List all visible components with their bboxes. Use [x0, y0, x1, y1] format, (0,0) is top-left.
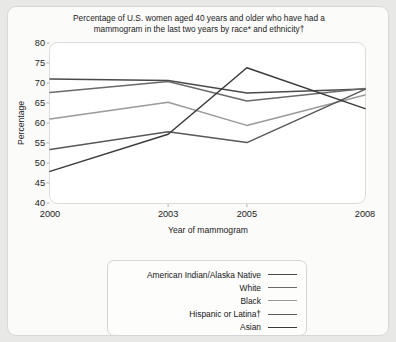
legend-item-label: Asian [240, 322, 261, 332]
plot-area [50, 43, 366, 204]
x-tick-label: 2008 [355, 209, 375, 219]
legend-item-swatch [268, 274, 297, 275]
x-tick-label: 2003 [158, 209, 178, 219]
y-tick-label: 60 [35, 118, 45, 128]
legend-item-swatch [268, 300, 297, 301]
legend-item-swatch [268, 327, 297, 328]
x-axis-title: Year of mammogram [168, 225, 248, 235]
x-axis-tick-labels: 2000200320052008 [40, 209, 375, 219]
y-tick-label: 45 [35, 178, 45, 188]
y-axis-tick-labels: 404550556065707580 [35, 38, 45, 208]
y-tick-label: 80 [35, 38, 45, 48]
legend-item-swatch [268, 287, 297, 288]
legend-item-label: Black [241, 296, 261, 306]
y-axis-title: Percentage [16, 101, 26, 145]
y-tick-label: 75 [35, 58, 45, 68]
legend-item-label: Hispanic or Latina† [189, 309, 261, 319]
y-tick-label: 40 [35, 198, 45, 208]
chart-legend: American Indian/Alaska NativeWhiteBlackH… [107, 260, 307, 336]
y-tick-label: 70 [35, 78, 45, 88]
x-axis-tick-marks [168, 204, 247, 208]
legend-item[interactable]: Hispanic or Latina† [189, 308, 297, 321]
legend-item[interactable]: Black [241, 294, 297, 307]
legend-item[interactable]: White [240, 281, 297, 294]
legend-item-label: American Indian/Alaska Native [147, 270, 261, 280]
legend-item[interactable]: American Indian/Alaska Native [147, 268, 297, 281]
legend-item-label: White [240, 283, 261, 293]
legend-item[interactable]: Asian [240, 321, 297, 334]
x-tick-label: 2005 [237, 209, 257, 219]
x-tick-label: 2000 [40, 209, 60, 219]
y-tick-label: 50 [35, 158, 45, 168]
legend-item-swatch [268, 314, 297, 315]
y-tick-label: 55 [35, 138, 45, 148]
y-tick-label: 65 [35, 98, 45, 108]
figure-container: Percentage of U.S. women aged 40 years a… [7, 6, 389, 336]
